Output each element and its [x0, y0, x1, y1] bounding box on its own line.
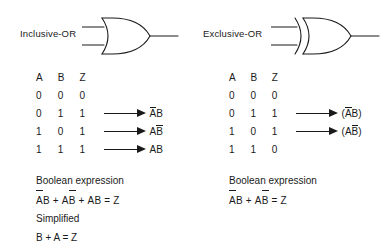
cell-z: 0 — [272, 86, 296, 104]
cell-term — [342, 140, 386, 158]
cell-term: AB — [150, 140, 193, 158]
table-header-row: A B Z — [36, 68, 193, 86]
cell-term — [150, 86, 193, 104]
cell-b: 0 — [250, 86, 271, 104]
expr-z: Z — [113, 195, 119, 206]
header-spacer — [104, 68, 150, 86]
arrow-right-icon — [104, 127, 148, 136]
cell-z: 0 — [272, 140, 296, 158]
expr-plus: + — [79, 195, 85, 206]
table-row: 0 1 1 (AB) — [229, 104, 386, 122]
arrow-right-icon — [296, 109, 340, 118]
inclusive-or-label: Inclusive-OR — [20, 28, 76, 39]
boolean-expression-heading: Boolean expression — [36, 171, 124, 190]
cell-z: 1 — [79, 104, 104, 122]
expr-a-bar: A — [229, 190, 236, 210]
cell-a: 1 — [36, 122, 58, 140]
cell-arrow — [104, 104, 150, 122]
expr-a-bar: A — [36, 190, 43, 210]
term-a-bar: A — [345, 107, 352, 119]
cell-arrow — [104, 122, 150, 140]
expr-plus: + — [53, 195, 59, 206]
expr-b: B — [236, 195, 243, 206]
exclusive-or-label: Exclusive-OR — [203, 28, 262, 39]
expr-z: Z — [281, 195, 287, 206]
term-b: B — [156, 144, 163, 155]
table-row: 0 0 0 — [36, 86, 193, 104]
cell-arrow — [104, 86, 150, 104]
term-a: A — [345, 126, 352, 137]
expr-b-bar: B — [69, 190, 76, 210]
inclusive-or-gate-row: Inclusive-OR — [0, 12, 193, 60]
boolean-expression: AB + AB + AB = Z — [36, 190, 124, 209]
header-b: B — [58, 68, 80, 86]
cell-term: (AB) — [342, 104, 386, 122]
expr-equals: = — [104, 195, 110, 206]
cell-b: 0 — [58, 86, 80, 104]
cell-arrow — [296, 140, 342, 158]
cell-b: 1 — [250, 104, 271, 122]
cell-z: 1 — [272, 122, 296, 140]
cell-arrow — [296, 86, 342, 104]
table-row: 0 0 0 — [229, 86, 386, 104]
term-a-bar: A — [150, 107, 157, 119]
table-row: 1 0 1 AB — [36, 122, 193, 140]
inclusive-or-panel: Inclusive-OR A B Z — [0, 0, 193, 249]
expr-b-bar: B — [262, 190, 269, 210]
cell-a: 0 — [229, 104, 250, 122]
header-term-spacer — [342, 68, 386, 86]
cell-a: 0 — [36, 104, 58, 122]
exclusive-or-truth-table: A B Z 0 0 0 0 1 1 — [229, 68, 386, 158]
cell-arrow — [296, 104, 342, 122]
cell-term: AB — [150, 104, 193, 122]
term-b-bar: B — [156, 125, 163, 137]
cell-b: 1 — [58, 140, 80, 158]
header-b: B — [250, 68, 271, 86]
expr-a: A — [255, 195, 262, 206]
cell-term: AB — [150, 122, 193, 140]
paren-close: ) — [358, 108, 361, 119]
cell-z: 1 — [79, 122, 104, 140]
arrow-right-icon — [104, 109, 148, 118]
header-a: A — [36, 68, 58, 86]
simplified-heading: Simplified — [36, 209, 124, 228]
expr-b: B — [94, 195, 101, 206]
cell-arrow — [104, 140, 150, 158]
arrow-right-icon — [296, 127, 340, 136]
cell-b: 1 — [250, 140, 271, 158]
table-row: 1 1 1 AB — [36, 140, 193, 158]
cell-z: 1 — [272, 104, 296, 122]
cell-a: 1 — [229, 140, 250, 158]
cell-b: 0 — [250, 122, 271, 140]
inclusive-or-truth-table: A B Z 0 0 0 0 1 1 — [36, 68, 193, 158]
cell-z: 1 — [79, 140, 104, 158]
header-spacer — [296, 68, 342, 86]
cell-z: 0 — [79, 86, 104, 104]
term-a: A — [150, 126, 157, 137]
header-term-spacer — [150, 68, 193, 86]
table-row: 1 1 0 — [229, 140, 386, 158]
table-row: 0 1 1 AB — [36, 104, 193, 122]
inclusive-or-expression-block: Boolean expression AB + AB + AB = Z Simp… — [36, 171, 124, 247]
xor-gate-icon — [271, 12, 381, 60]
header-z: Z — [79, 68, 104, 86]
exclusive-or-gate-row: Exclusive-OR — [193, 12, 386, 60]
exclusive-or-expression-block: Boolean expression AB + AB = Z — [229, 171, 317, 209]
expr-equals: = — [272, 195, 278, 206]
arrow-right-icon — [104, 145, 148, 154]
cell-term: (AB) — [342, 122, 386, 140]
boolean-expression-heading: Boolean expression — [229, 171, 317, 190]
table-row: 1 0 1 (AB) — [229, 122, 386, 140]
cell-a: 1 — [36, 140, 58, 158]
expr-a: A — [62, 195, 69, 206]
table-header-row: A B Z — [229, 68, 386, 86]
paren-close: ) — [358, 126, 361, 137]
exclusive-or-panel: Exclusive-OR A B Z — [193, 0, 386, 249]
cell-a: 1 — [229, 122, 250, 140]
cell-b: 1 — [58, 104, 80, 122]
term-b: B — [156, 108, 163, 119]
cell-a: 0 — [229, 86, 250, 104]
cell-term — [342, 86, 386, 104]
cell-arrow — [296, 122, 342, 140]
expr-plus: + — [246, 195, 252, 206]
